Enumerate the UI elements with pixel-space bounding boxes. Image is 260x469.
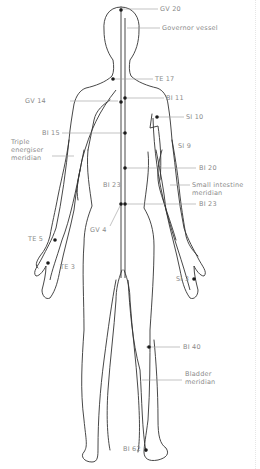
leader-gv4 [110, 204, 121, 226]
label-bl20: BI 20 [199, 164, 217, 172]
label-bl11: BI 11 [166, 94, 184, 102]
point-si3 [192, 277, 196, 281]
page-edge-divider [255, 0, 256, 469]
torso-right [144, 152, 168, 461]
point-bl40 [147, 345, 151, 349]
head-outline [36, 7, 121, 268]
label-gv4: GV 4 [90, 226, 107, 234]
label-triple-1: Triple [11, 138, 30, 146]
point-te17 [111, 77, 115, 81]
point-si10 [155, 115, 159, 119]
inner-leg-left [107, 270, 122, 450]
label-te3: TE 3 [60, 263, 75, 271]
point-bl11 [123, 96, 127, 100]
label-bladder-2: meridian [185, 378, 215, 386]
label-gv20: GV 20 [160, 5, 181, 13]
label-te5: TE 5 [28, 235, 43, 243]
inner-leg-right [124, 270, 140, 452]
point-gv14 [119, 100, 123, 104]
label-small-intestine-1: Small intestine [192, 181, 243, 189]
label-gv14: GV 14 [25, 97, 46, 105]
head-outline-right [121, 7, 198, 256]
left-arm [35, 140, 84, 299]
label-te17: TE 17 [155, 75, 174, 83]
point-te5 [53, 238, 57, 242]
label-governor-vessel: Governor vessel [162, 24, 218, 32]
label-triple-2: energiser [11, 146, 43, 154]
label-si10: SI 10 [186, 113, 203, 121]
label-bl62: BI 62 [123, 445, 141, 453]
scapula-right [150, 114, 161, 180]
label-bl15: BI 15 [42, 129, 60, 137]
scapula-left [88, 100, 110, 150]
label-bl40: BI 40 [183, 343, 201, 351]
label-bladder-1: Bladder [185, 370, 212, 378]
torso-left [82, 150, 116, 462]
label-bl23-left: BI 23 [103, 181, 121, 189]
label-si3: SI 3 [176, 275, 189, 283]
label-triple-3: meridian [11, 154, 41, 162]
meridian-diagram: GV 20 Governor vessel TE 17 GV 14 BI 11 … [0, 0, 260, 469]
label-si9: SI 9 [178, 142, 191, 150]
point-bl20 [123, 166, 127, 170]
point-bl15 [123, 131, 127, 135]
inner-arm-left [77, 170, 80, 200]
point-te3 [46, 261, 50, 265]
label-bl23-right: BI 23 [199, 200, 217, 208]
label-small-intestine-2: meridian [192, 189, 222, 197]
point-bl23 [123, 202, 127, 206]
point-gv4 [119, 202, 123, 206]
point-bl62 [144, 448, 148, 452]
point-gv20 [119, 8, 123, 12]
